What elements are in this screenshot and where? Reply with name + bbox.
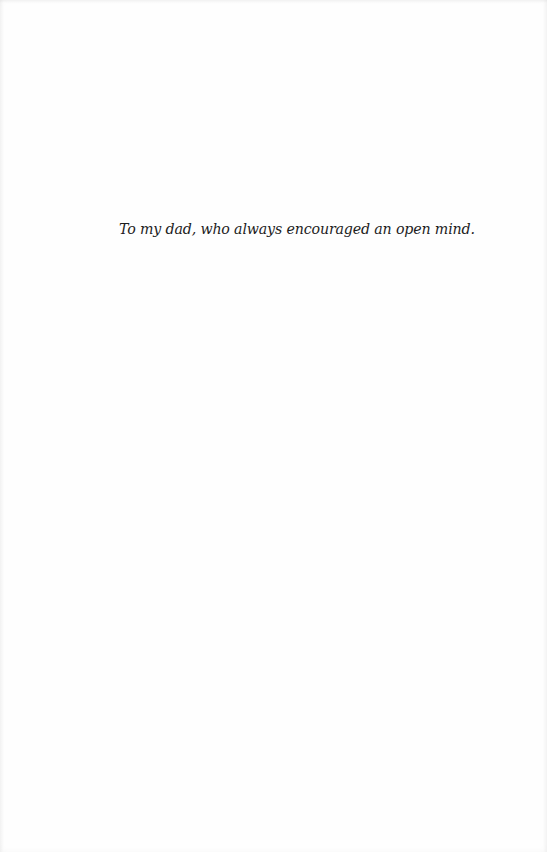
page-right-edge bbox=[543, 0, 547, 852]
dedication-text: To my dad, who always encouraged an open… bbox=[119, 220, 475, 238]
page-top-edge bbox=[0, 0, 547, 3]
book-page: To my dad, who always encouraged an open… bbox=[0, 0, 547, 852]
page-left-edge bbox=[0, 0, 4, 852]
